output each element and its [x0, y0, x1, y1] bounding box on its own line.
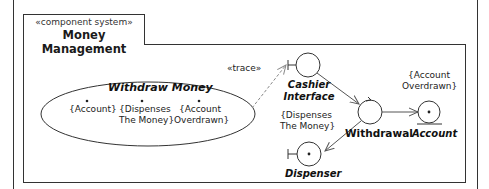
- diagram-graphics: [0, 0, 489, 189]
- withdrawal-label: Withdrawal: [345, 128, 413, 139]
- account-label: Account: [412, 128, 457, 139]
- extension-point-dot: [86, 100, 89, 103]
- boundary-icon: [288, 142, 321, 166]
- note-account-overdrawn: {Account Overdrawn}: [402, 70, 456, 92]
- extension-point-dot: [198, 100, 201, 103]
- entity-icon: [417, 101, 442, 124]
- dispenser-label: Dispenser: [285, 168, 341, 179]
- extension-point-dispenses: {Dispenses The Money}: [119, 104, 167, 126]
- extension-point-dot: [141, 100, 144, 103]
- cashier-interface-label: Cashier Interface: [283, 79, 335, 103]
- extension-point-overdrawn: {Account Overdrawn}: [174, 104, 226, 126]
- extension-point-account: {Account}: [69, 104, 105, 115]
- use-case-name: Withdraw Money: [108, 82, 213, 93]
- trace-label: «trace»: [227, 63, 261, 74]
- note-dispenses-money: {Dispenses The Money}: [280, 110, 332, 132]
- control-icon: [358, 97, 382, 124]
- boundary-icon: [288, 53, 320, 77]
